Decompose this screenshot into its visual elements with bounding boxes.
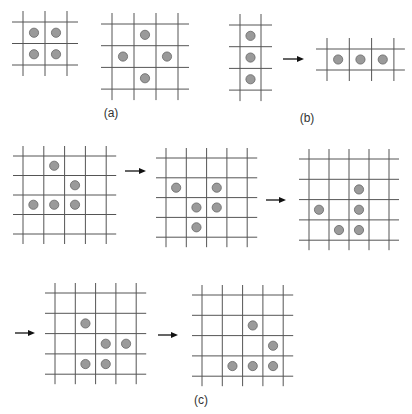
- occupied-cell-dot: [314, 205, 323, 214]
- grid-c2: [156, 148, 257, 247]
- grid-c4: [45, 283, 146, 384]
- occupied-cell-dot: [212, 203, 221, 212]
- transition-arrow-c1-to-c2: [125, 168, 146, 174]
- occupied-cell-dot: [268, 341, 277, 350]
- occupied-cell-dot: [246, 75, 255, 84]
- occupied-cell-dot: [192, 203, 201, 212]
- occupied-cell-dot: [162, 52, 171, 61]
- grid-a1: [12, 11, 78, 76]
- arrow-head-icon: [28, 330, 35, 336]
- transition-arrow-b1-to-b2: [283, 56, 304, 62]
- occupied-cell-dot: [29, 200, 38, 209]
- arrow-head-icon: [171, 332, 178, 338]
- occupied-cell-dot: [354, 185, 363, 194]
- occupied-cell-dot: [50, 161, 59, 170]
- occupied-cell-dot: [356, 55, 365, 64]
- occupied-cell-dot: [50, 200, 59, 209]
- occupied-cell-dot: [334, 225, 343, 234]
- occupied-cell-dot: [81, 319, 90, 328]
- diagram-canvas: (a) (b) (c): [0, 0, 412, 414]
- occupied-cell-dot: [354, 225, 363, 234]
- grid-c3: [299, 149, 399, 250]
- grid-c1: [13, 146, 116, 244]
- grid-b2: [316, 38, 405, 81]
- occupied-cell-dot: [248, 321, 257, 330]
- panel-label-c: (c): [194, 393, 208, 407]
- occupied-cell-dot: [51, 28, 60, 37]
- transition-arrow-c3-to-c4: [15, 330, 35, 336]
- occupied-cell-dot: [334, 55, 343, 64]
- occupied-cell-dot: [121, 339, 130, 348]
- occupied-cell-dot: [268, 361, 277, 370]
- transition-arrow-c4-to-c5: [158, 332, 178, 338]
- occupied-cell-dot: [246, 31, 255, 40]
- arrow-head-icon: [139, 168, 146, 174]
- arrow-head-icon: [297, 56, 304, 62]
- occupied-cell-dot: [248, 361, 257, 370]
- grid-c5: [192, 285, 293, 386]
- occupied-cell-dot: [172, 183, 181, 192]
- occupied-cell-dot: [378, 55, 387, 64]
- occupied-cell-dot: [29, 50, 38, 59]
- transition-arrow-c2-to-c3: [266, 197, 286, 203]
- occupied-cell-dot: [101, 339, 110, 348]
- occupied-cell-dot: [140, 74, 149, 83]
- grid-b1: [229, 14, 272, 101]
- panel-label-a: (a): [104, 106, 119, 120]
- occupied-cell-dot: [70, 181, 79, 190]
- occupied-cell-dot: [101, 359, 110, 368]
- occupied-cell-dot: [81, 359, 90, 368]
- grids-layer: [12, 11, 405, 386]
- occupied-cell-dot: [354, 205, 363, 214]
- grid-a2: [101, 13, 189, 100]
- occupied-cell-dot: [70, 200, 79, 209]
- occupied-cell-dot: [51, 50, 60, 59]
- occupied-cell-dot: [192, 223, 201, 232]
- occupied-cell-dot: [118, 52, 127, 61]
- occupied-cell-dot: [246, 53, 255, 62]
- occupied-cell-dot: [140, 30, 149, 39]
- arrow-head-icon: [279, 197, 286, 203]
- occupied-cell-dot: [212, 183, 221, 192]
- panel-label-b: (b): [300, 111, 315, 125]
- occupied-cell-dot: [228, 361, 237, 370]
- occupied-cell-dot: [29, 28, 38, 37]
